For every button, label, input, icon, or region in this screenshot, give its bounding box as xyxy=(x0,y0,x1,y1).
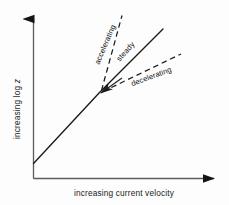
y-axis-label-prefix: increasing log xyxy=(12,83,22,139)
y-axis-label-variable: z xyxy=(12,79,22,83)
y-axis-label: increasing log z xyxy=(12,68,22,150)
x-axis-label: increasing current velocity xyxy=(74,188,174,198)
figure-container: accelerating steady decelerating increas… xyxy=(0,0,229,205)
